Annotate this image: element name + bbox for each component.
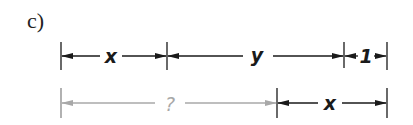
dimension-diagram: x y 1 ? x bbox=[0, 0, 413, 125]
row2-label-unknown: ? bbox=[165, 93, 175, 115]
row1-label-x: x bbox=[104, 45, 118, 67]
row1-label-1: 1 bbox=[359, 45, 372, 67]
row2-label-x: x bbox=[323, 92, 337, 114]
row1-label-y: y bbox=[251, 44, 265, 66]
